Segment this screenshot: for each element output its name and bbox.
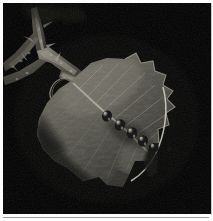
photograph <box>3 3 211 214</box>
insect-1 <box>100 109 113 123</box>
scene-artwork <box>3 3 211 214</box>
insect-4 <box>136 134 150 149</box>
film-grain <box>3 3 211 214</box>
night-background <box>3 3 211 214</box>
insect-2 <box>113 118 127 133</box>
leaf-tip <box>107 171 129 187</box>
petiole <box>59 71 91 91</box>
leaf-serrations <box>125 53 175 143</box>
branch <box>3 5 87 85</box>
right-hairline-rule <box>211 3 212 215</box>
insect-5 <box>147 141 160 155</box>
insect-cluster <box>100 109 171 179</box>
tendril-loop <box>50 77 83 106</box>
leaf-midrib <box>73 83 153 163</box>
branch-thorns <box>10 21 61 71</box>
photo-frame <box>0 0 213 221</box>
leaf <box>3 3 211 214</box>
leaf-veins <box>79 63 165 146</box>
insect-3 <box>125 126 139 141</box>
bottom-hairline-rule <box>3 217 209 218</box>
